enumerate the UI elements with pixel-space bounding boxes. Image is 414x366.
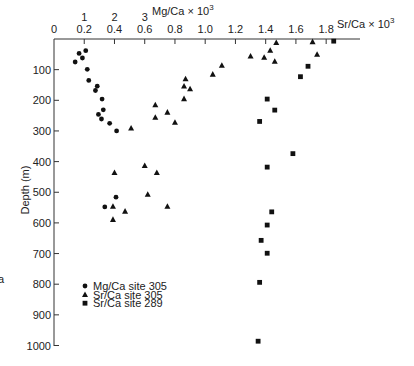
square-marker [269,209,274,214]
triangle-marker [261,54,267,60]
square-marker [256,339,261,344]
square-marker [331,39,336,44]
circle-marker [102,205,107,210]
circle-marker [83,48,88,53]
y-tick-label: 400 [33,156,51,168]
circle-marker [95,84,100,89]
triangle-marker [187,86,193,92]
circle-marker [77,51,82,56]
y-tick-label: 600 [33,217,51,229]
square-marker [290,151,295,156]
circle-marker [100,97,105,102]
triangle-marker [183,76,189,82]
triangle-marker [210,71,216,77]
triangle-marker [172,119,178,125]
triangle-marker [152,102,158,108]
x-tick-label: 0.4 [107,23,122,35]
triangle-marker [181,83,187,89]
square-marker [298,74,303,79]
triangle-marker [142,162,148,168]
y-tick-label: 100 [33,64,51,76]
circle-marker [114,195,119,200]
mg-tick-label: 2 [111,11,117,23]
triangle-marker [181,96,187,102]
sr-ca-ticks: 00.20.40.60.81.01.21.41.61.8 [51,23,334,44]
square-marker [259,238,264,243]
y-tick-label: 500 [33,186,51,198]
triangle-marker [110,203,116,209]
series-triangle [110,39,320,222]
x-tick-label: 1.8 [319,23,334,35]
legend-label: Sr/Ca site 289 [93,297,163,309]
depth-profile-chart: 00.20.40.60.81.01.21.41.61.8 123 1002003… [0,0,414,366]
x-tick-label: 0.8 [167,23,182,35]
y-tick-label: 300 [33,125,51,137]
series-square [256,39,336,344]
circle-marker [80,56,85,61]
circle-marker [101,107,106,112]
x-tick-label: 0 [51,23,57,35]
mg-tick-label: 1 [81,11,87,23]
y-axis-title: Depth (m) [19,166,31,215]
sr-ca-axis-title: Sr/Ca × 103 [337,16,395,30]
triangle-marker [145,191,151,197]
triangle-marker [110,216,116,222]
circle-marker [107,121,112,126]
triangle-marker [152,114,158,120]
triangle-marker [314,51,320,57]
legend-triangle-icon [82,291,88,297]
triangle-marker [273,39,279,45]
triangle-marker [122,208,128,214]
legend: Mg/Ca site 305Sr/Ca site 305Sr/Ca site 2… [82,280,167,309]
axes: 00.20.40.60.81.01.21.41.61.8 123 1002003… [0,3,395,352]
triangle-marker [267,47,273,53]
triangle-marker [164,109,170,115]
square-marker [265,165,270,170]
triangle-marker [111,169,117,175]
square-marker [306,64,311,69]
x-tick-label: 1.4 [258,23,273,35]
x-tick-label: 1.0 [198,23,213,35]
x-tick-label: 1.2 [228,23,243,35]
circle-marker [99,117,104,122]
triangle-marker [154,169,160,175]
mg-tick-label: 3 [142,11,148,23]
circle-marker [114,129,119,134]
triangle-marker [272,58,278,64]
square-marker [257,119,262,124]
mg-ca-axis-title: Mg/Ca × 103 [152,3,214,17]
square-marker [265,223,270,228]
x-tick-label: 0.6 [137,23,152,35]
triangle-marker [248,53,254,59]
square-marker [257,280,262,285]
stray-glyph: a [0,273,5,285]
y-tick-label: 1000 [27,340,51,352]
x-tick-label: 1.6 [288,23,303,35]
x-tick-label: 0.2 [77,23,92,35]
circle-marker [86,78,91,83]
square-marker [265,97,270,102]
series-circle [73,48,119,209]
triangle-marker [219,62,225,68]
circle-marker [73,60,78,65]
y-tick-label: 700 [33,248,51,260]
legend-circle-icon [83,284,88,289]
y-tick-label: 200 [33,94,51,106]
legend-square-icon [83,301,88,306]
square-marker [272,108,277,113]
triangle-marker [128,125,134,131]
mg-ca-ticks: 123 [81,11,148,23]
circle-marker [96,112,101,117]
y-tick-label: 900 [33,309,51,321]
triangle-marker [164,203,170,209]
circle-marker [85,67,90,72]
circle-marker [93,88,98,93]
square-marker [265,251,270,256]
y-tick-label: 800 [33,278,51,290]
